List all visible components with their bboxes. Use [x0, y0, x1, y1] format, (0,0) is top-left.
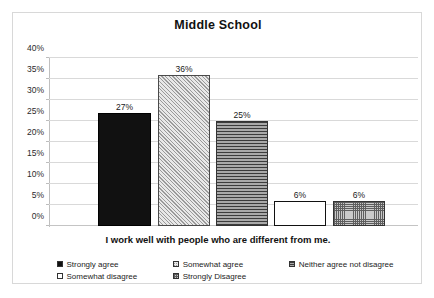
bar-label-strongly-agree: 27%	[116, 102, 133, 112]
y-tick-label-0: 0%	[32, 211, 44, 221]
legend-item-strongly-disagree[interactable]: Strongly Disagree	[173, 272, 289, 281]
y-tick-label-5: 5%	[32, 190, 44, 200]
y-tick-label-40: 40%	[27, 43, 44, 53]
legend-item-neither-agree-nor-disagree[interactable]: Neither agree not disagree	[289, 260, 407, 269]
gridline-30	[49, 99, 418, 100]
legend-item-somewhat-agree[interactable]: Somewhat agree	[173, 260, 289, 269]
y-tick-label-20: 20%	[27, 127, 44, 137]
y-tick-label-30: 30%	[27, 85, 44, 95]
legend-item-strongly-agree[interactable]: Strongly agree	[57, 260, 173, 269]
gridline-40	[49, 57, 418, 58]
plot-area: 0% 5% 10% 15% 20% 25% 30% 35% 40% 27% 36…	[49, 58, 418, 226]
bar-label-neither-agree-nor-disagree: 25%	[233, 110, 250, 120]
bar-somewhat-disagree[interactable]: 6%	[274, 201, 326, 226]
legend-swatch-horizontal-lines-icon	[289, 261, 295, 267]
legend-label-neither-agree-nor-disagree: Neither agree not disagree	[299, 260, 394, 269]
legend-label-somewhat-agree: Somewhat agree	[183, 260, 243, 269]
chart-title: Middle School	[13, 18, 423, 32]
bar-label-somewhat-agree: 36%	[175, 64, 192, 74]
legend-label-strongly-disagree: Strongly Disagree	[183, 272, 247, 281]
y-tick-label-10: 10%	[27, 169, 44, 179]
legend-row-1: Strongly agree Somewhat agree Neither ag…	[57, 258, 407, 270]
legend-swatch-white-empty-icon	[57, 273, 63, 279]
bar-strongly-disagree[interactable]: 6%	[333, 201, 385, 226]
legend-item-somewhat-disagree[interactable]: Somewhat disagree	[57, 272, 173, 281]
y-tick-label-35: 35%	[27, 64, 44, 74]
bar-label-somewhat-disagree: 6%	[294, 190, 306, 200]
gridline-35	[49, 78, 418, 79]
legend-row-2: Somewhat disagree Strongly Disagree	[57, 270, 407, 282]
legend-swatch-diagonal-hatch-icon	[173, 261, 179, 267]
x-axis-caption: I work well with people who are differen…	[13, 234, 423, 245]
bar-label-strongly-disagree: 6%	[353, 190, 365, 200]
y-tick-label-15: 15%	[27, 148, 44, 158]
bar-somewhat-agree[interactable]: 36%	[158, 75, 210, 226]
legend-label-strongly-agree: Strongly agree	[67, 260, 119, 269]
chart-frame: Middle School 0% 5% 10% 15% 20% 25% 30% …	[12, 12, 422, 284]
chart-legend: Strongly agree Somewhat agree Neither ag…	[57, 258, 407, 282]
bar-neither-agree-nor-disagree[interactable]: 25%	[216, 121, 268, 226]
bar-strongly-agree[interactable]: 27%	[98, 113, 151, 226]
y-tick-label-25: 25%	[27, 106, 44, 116]
legend-swatch-crosshatch-grid-icon	[173, 273, 179, 279]
legend-swatch-solid-black-icon	[57, 261, 63, 267]
legend-label-somewhat-disagree: Somewhat disagree	[67, 272, 138, 281]
